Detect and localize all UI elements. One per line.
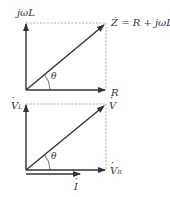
vr-symbol: V — [110, 165, 117, 176]
v-label: V — [109, 101, 116, 111]
vr-label: VR — [110, 166, 122, 176]
angle-arc — [45, 75, 51, 90]
theta-label: θ — [51, 72, 56, 81]
phasor-diagrams-svg — [0, 0, 170, 197]
impedance-diagram — [26, 23, 106, 90]
vl-subscript: L — [18, 103, 22, 110]
jwl-label: jωL — [17, 8, 35, 18]
angle-arc — [45, 155, 51, 170]
impedance-label: Ż = R + jωL — [111, 18, 170, 28]
theta-label: θ — [51, 152, 56, 161]
current-label: I — [74, 182, 78, 192]
v-vector-arrow — [26, 106, 104, 170]
v-symbol: V — [109, 100, 116, 111]
vr-subscript: R — [117, 168, 122, 175]
i-symbol: I — [74, 181, 78, 192]
vl-label: VL — [11, 101, 22, 111]
vl-symbol: V — [11, 100, 18, 111]
voltage-phasor-diagram — [26, 104, 106, 174]
impedance-vector-arrow — [26, 25, 104, 90]
